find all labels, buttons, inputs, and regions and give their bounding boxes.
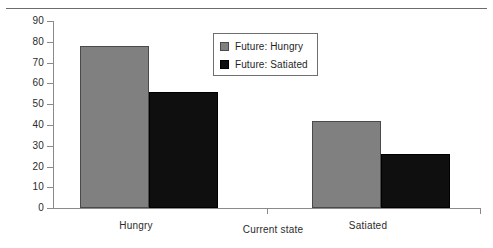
y-axis-tick-label: 80 bbox=[4, 37, 44, 47]
y-axis-label-wrap: 90 bbox=[0, 16, 44, 26]
bar-satiated-future-satiated bbox=[381, 154, 450, 208]
chart-legend: Future: Hungry Future: Satiated bbox=[213, 33, 318, 76]
y-axis-label-wrap: 30 bbox=[0, 141, 44, 151]
y-axis-tick bbox=[47, 208, 53, 209]
top-divider-rule bbox=[6, 8, 487, 9]
legend-swatch-gray-icon bbox=[220, 42, 229, 51]
y-axis-label-wrap: 80 bbox=[0, 37, 44, 47]
y-axis-tick-label: 90 bbox=[4, 16, 44, 26]
y-axis-tick-label: 20 bbox=[4, 162, 44, 172]
x-axis-tick bbox=[267, 209, 268, 214]
y-axis-tick-label: 40 bbox=[4, 120, 44, 130]
bar-chart-figure: 90 80 70 60 50 40 30 20 10 0 bbox=[0, 0, 493, 248]
y-axis-label-wrap: 0 bbox=[0, 203, 44, 213]
bar-satiated-future-hungry bbox=[312, 121, 381, 208]
x-axis-title: Current state bbox=[213, 224, 333, 235]
y-axis-label-wrap: 10 bbox=[0, 182, 44, 192]
y-axis-tick-label: 10 bbox=[4, 182, 44, 192]
legend-label: Future: Satiated bbox=[235, 59, 308, 70]
bar-hungry-future-hungry bbox=[80, 46, 149, 208]
y-axis-tick-label: 0 bbox=[4, 203, 44, 213]
y-axis-tick-label: 50 bbox=[4, 99, 44, 109]
bar-hungry-future-satiated bbox=[149, 92, 218, 208]
y-axis-tick-label: 60 bbox=[4, 78, 44, 88]
y-axis-tick-label: 30 bbox=[4, 141, 44, 151]
y-axis-tick-label: 70 bbox=[4, 58, 44, 68]
x-axis-category-label-hungry: Hungry bbox=[96, 220, 176, 231]
y-axis-label-wrap: 70 bbox=[0, 58, 44, 68]
legend-label: Future: Hungry bbox=[235, 41, 303, 52]
x-axis-tick bbox=[480, 209, 481, 214]
y-axis-label-wrap: 50 bbox=[0, 99, 44, 109]
legend-entry-future-satiated: Future: Satiated bbox=[220, 59, 308, 70]
y-axis-label-wrap: 60 bbox=[0, 78, 44, 88]
y-axis-label-wrap: 40 bbox=[0, 120, 44, 130]
y-axis-label-wrap: 20 bbox=[0, 162, 44, 172]
legend-swatch-black-icon bbox=[220, 60, 229, 69]
legend-entry-future-hungry: Future: Hungry bbox=[220, 41, 303, 52]
x-axis-category-label-satiated: Satiated bbox=[328, 220, 408, 231]
